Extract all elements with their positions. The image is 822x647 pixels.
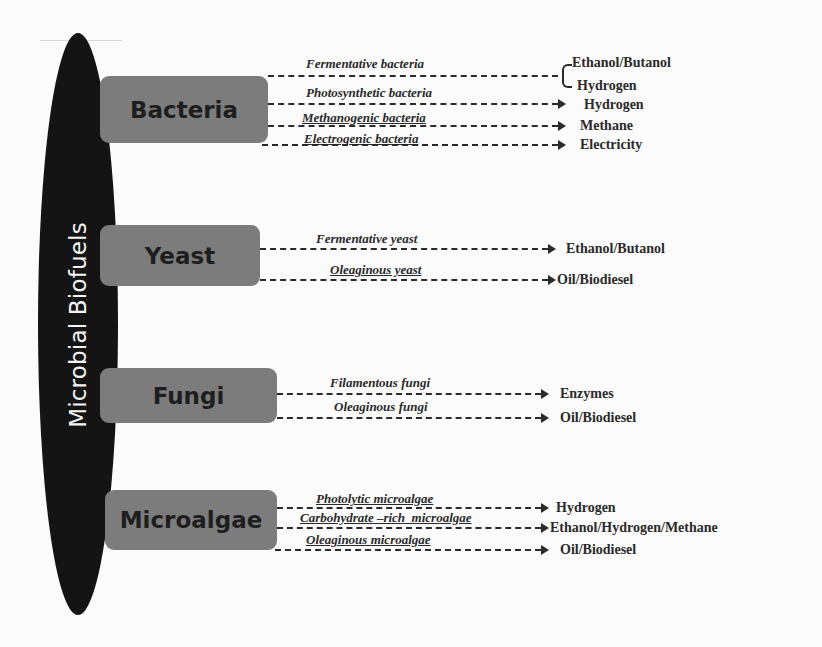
dashed-connector xyxy=(268,75,558,77)
product-label: Hydrogen xyxy=(584,97,644,113)
arrow-right-icon xyxy=(548,275,556,285)
category-box-yeast: Yeast xyxy=(100,225,260,286)
product-label: Methane xyxy=(580,118,633,134)
dashed-connector xyxy=(275,549,541,551)
dashed-connector xyxy=(277,507,541,509)
arrow-right-icon xyxy=(541,503,549,513)
product-label: Ethanol/Butanol xyxy=(566,241,665,257)
arrow-right-icon xyxy=(541,523,549,533)
branch-brace-bottom xyxy=(562,75,572,88)
pathway-label: Oleaginous fungi xyxy=(334,399,428,415)
arrow-right-icon xyxy=(558,140,566,150)
product-label: Oil/Biodiesel xyxy=(560,410,636,426)
product-label: Electricity xyxy=(580,137,642,153)
product-label: Hydrogen xyxy=(577,78,637,94)
diagram-title: Microbial Biofuels xyxy=(65,222,91,428)
category-label: Yeast xyxy=(145,243,215,269)
product-label: Enzymes xyxy=(560,386,614,402)
arrow-right-icon xyxy=(558,99,566,109)
pathway-label: Carbohydrate –rich microalgae xyxy=(300,510,472,526)
pathway-label: Fermentative yeast xyxy=(316,231,417,247)
product-label: Oil/Biodiesel xyxy=(560,542,636,558)
dashed-connector xyxy=(260,248,548,250)
category-label: Microalgae xyxy=(120,507,263,533)
dashed-connector xyxy=(262,144,558,146)
pathway-label: Filamentous fungi xyxy=(330,375,430,391)
category-label: Bacteria xyxy=(130,97,238,123)
dashed-connector xyxy=(277,527,541,529)
product-label: Oil/Biodiesel xyxy=(557,272,633,288)
arrow-right-icon xyxy=(541,545,549,555)
pathway-label: Methanogenic bacteria xyxy=(302,110,426,126)
arrow-right-icon xyxy=(541,413,549,423)
dashed-connector xyxy=(268,103,558,105)
arrow-right-icon xyxy=(548,244,556,254)
dashed-connector xyxy=(260,279,548,281)
dashed-connector xyxy=(268,125,558,127)
category-box-fungi: Fungi xyxy=(100,368,277,423)
pathway-label: Oleaginous yeast xyxy=(330,262,421,278)
arrow-right-icon xyxy=(541,389,549,399)
category-box-microalgae: Microalgae xyxy=(105,490,277,550)
dashed-connector xyxy=(277,393,541,395)
product-label: Ethanol/Hydrogen/Methane xyxy=(550,520,718,536)
category-box-bacteria: Bacteria xyxy=(100,76,268,143)
dashed-connector xyxy=(277,417,541,419)
product-label: Hydrogen xyxy=(556,500,616,516)
pathway-label: Oleaginous microalgae xyxy=(306,532,431,548)
pathway-label: Photolytic microalgae xyxy=(316,491,433,507)
pathway-label: Fermentative bacteria xyxy=(306,56,424,72)
pathway-label: Photosynthetic bacteria xyxy=(306,85,432,101)
category-label: Fungi xyxy=(153,383,225,409)
arrow-right-icon xyxy=(558,121,566,131)
product-label: Ethanol/Butanol xyxy=(572,55,671,71)
